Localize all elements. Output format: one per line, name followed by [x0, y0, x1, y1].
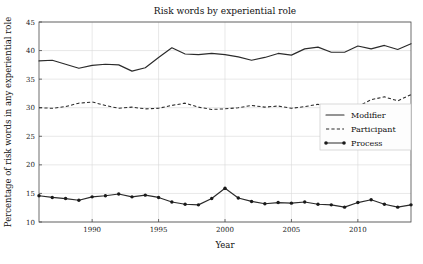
legend-marker	[324, 141, 328, 145]
data-point	[409, 203, 412, 206]
data-point	[104, 194, 107, 197]
data-point	[144, 193, 147, 196]
legend-label-participant: Participant	[351, 125, 396, 134]
data-point	[383, 203, 386, 206]
data-point	[343, 205, 346, 208]
data-point	[51, 196, 54, 199]
data-point	[77, 199, 80, 202]
legend-label-modifier: Modifier	[351, 111, 386, 120]
y-axis-title: Percentage of risk words in any experien…	[3, 17, 13, 227]
data-point	[183, 203, 186, 206]
y-tick-label: 35	[26, 76, 35, 84]
data-point	[290, 201, 293, 204]
data-point	[223, 187, 226, 190]
x-tick-label: 2000	[216, 226, 234, 234]
legend-marker	[342, 141, 346, 145]
x-tick-label: 1990	[83, 226, 101, 234]
data-point	[117, 192, 120, 195]
y-tick-label: 45	[26, 19, 35, 27]
data-point	[90, 195, 93, 198]
x-tick-label: 1995	[150, 226, 168, 234]
chart-title: Risk words by experiential role	[154, 6, 296, 16]
data-point	[170, 200, 173, 203]
data-point	[130, 195, 133, 198]
data-point	[263, 202, 266, 205]
x-tick-label: 2010	[349, 226, 367, 234]
data-point	[250, 200, 253, 203]
data-point	[316, 203, 319, 206]
data-point	[197, 203, 200, 206]
y-tick-label: 25	[26, 133, 35, 141]
y-tick-label: 15	[26, 190, 35, 198]
data-point	[64, 197, 67, 200]
data-point	[303, 200, 306, 203]
y-tick-label: 20	[26, 161, 35, 169]
data-point	[157, 196, 160, 199]
data-point	[330, 203, 333, 206]
data-point	[396, 205, 399, 208]
y-tick-label: 30	[26, 104, 35, 112]
data-point	[356, 201, 359, 204]
data-point	[237, 196, 240, 199]
data-point	[369, 198, 372, 201]
x-tick-label: 2005	[283, 226, 301, 234]
chart-figure: 101520253035404519901995200020052010Risk…	[0, 0, 423, 264]
legend-label-process: Process	[351, 139, 382, 148]
y-tick-label: 10	[26, 219, 35, 227]
data-point	[276, 201, 279, 204]
x-axis-title: Year	[214, 240, 235, 250]
data-point	[210, 197, 213, 200]
y-tick-label: 40	[26, 47, 35, 55]
data-point	[37, 194, 40, 197]
risk-words-line-chart: 101520253035404519901995200020052010Risk…	[0, 0, 423, 264]
